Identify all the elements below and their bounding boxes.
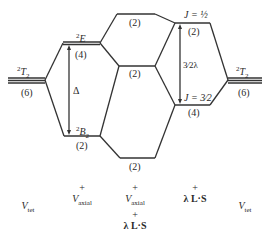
e-degeneracy: (4): [75, 50, 87, 60]
mid-top-degeneracy: (2): [129, 18, 141, 28]
lambda-splitting-label: 3⁄2λ: [183, 60, 198, 70]
b2-term-label: 2B2: [76, 124, 89, 141]
column-vaxial: + Vaxial: [72, 182, 92, 209]
j-half-label: J = ½: [184, 10, 208, 20]
mid-bottom-degeneracy: (2): [129, 162, 141, 172]
left-term-label: 2T2: [17, 64, 30, 81]
e-term-label: 2E: [76, 31, 86, 44]
b2-degeneracy: (2): [76, 141, 88, 151]
j-half-degeneracy: (2): [188, 27, 200, 37]
left-degeneracy: (6): [21, 88, 33, 98]
column-ls: + λ L·S: [184, 182, 207, 204]
column-vtet-right: Vtet: [238, 189, 251, 216]
mid-middle-degeneracy: (2): [129, 69, 141, 79]
j-three-half-degeneracy: (4): [188, 108, 200, 118]
delta-label: Δ: [73, 86, 79, 96]
column-vaxial-ls: + Vaxial + λ L·S: [124, 182, 147, 231]
right-term-label: 2T2: [236, 64, 249, 81]
j-three-half-label: J = 3⁄2: [184, 93, 212, 103]
column-vtet-left: Vtet: [21, 189, 34, 216]
right-degeneracy: (6): [238, 88, 250, 98]
